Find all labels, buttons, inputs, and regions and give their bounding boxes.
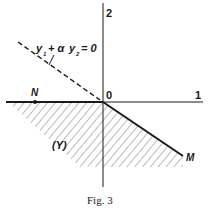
eq-y1: y: [35, 42, 43, 54]
point-n-marker: [33, 100, 37, 104]
eq-sub2: 2: [75, 51, 80, 57]
eq-y2: y: [68, 42, 76, 54]
origin-label: 0: [106, 89, 112, 101]
eq-sub1: 1: [43, 51, 47, 57]
figure-caption: Fig. 3: [87, 194, 113, 206]
eq-plus-alpha: + α: [48, 42, 65, 54]
y-tick-2: 2: [106, 7, 112, 19]
eq-equals-zero: = 0: [81, 42, 97, 54]
x-tick-1: 1: [195, 89, 201, 101]
label-pointer: [49, 55, 54, 65]
point-m-label: M: [186, 152, 195, 163]
region-y-label: (Y): [52, 139, 67, 151]
figure-canvas: 2 1 0 N M (Y) y 1 + α y 2 = 0 Fig. 3: [0, 0, 209, 213]
point-n-label: N: [31, 87, 39, 98]
region-y-hatch: [8, 102, 183, 167]
dashed-line-equation: y 1 + α y 2 = 0: [35, 42, 97, 57]
